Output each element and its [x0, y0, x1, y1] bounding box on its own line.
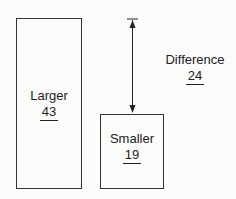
comparison-diagram: Larger 43 Smaller 19 Difference 24 [0, 0, 236, 199]
difference-label: Difference [158, 52, 232, 67]
difference-arrow-icon [0, 0, 236, 199]
difference-value: 24 [186, 69, 204, 85]
difference-label-group: Difference 24 [158, 52, 232, 85]
